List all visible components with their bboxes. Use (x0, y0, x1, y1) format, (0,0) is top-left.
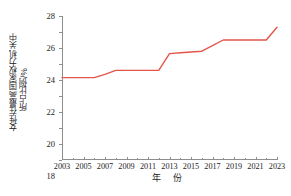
x-tick-label: 2015 (183, 163, 199, 171)
y-tick-label: 20 (47, 140, 56, 149)
x-tick-label: 2019 (226, 163, 242, 171)
x-tick-label: 2013 (161, 163, 177, 171)
y-tick-label: 28 (47, 12, 56, 21)
x-tick-label: 2007 (97, 163, 113, 171)
y-axis-title-line-1: 女性在最高国家权力机关中 (10, 33, 20, 131)
y-axis-title-line-2: 所占比例/% (20, 68, 30, 111)
x-tick-label: 2011 (140, 163, 156, 171)
plot-area: 10121416182022242628 2003200520072009201… (62, 16, 277, 160)
series-layer (62, 16, 277, 160)
y-axis-title: 女性在最高国家权力机关中 所占比例/% (4, 0, 36, 165)
x-tick (277, 157, 278, 160)
x-tick-label: 2005 (75, 163, 91, 171)
y-tick-label: 26 (47, 44, 56, 53)
x-tick-label: 2003 (54, 163, 70, 171)
y-tick-label: 22 (47, 108, 56, 117)
line-chart: 女性在最高国家权力机关中 所占比例/% 10121416182022242628… (0, 0, 291, 196)
x-axis-title: 年 份 (62, 171, 277, 184)
y-tick-label: 24 (47, 76, 56, 85)
y-tick-label: 18 (47, 172, 56, 181)
x-tick-label: 2023 (269, 163, 285, 171)
x-tick-label: 2009 (118, 163, 134, 171)
x-tick-label: 2017 (204, 163, 220, 171)
y-tick: 10 (59, 160, 62, 161)
x-tick-label: 2021 (247, 163, 263, 171)
series-line (62, 27, 277, 77)
